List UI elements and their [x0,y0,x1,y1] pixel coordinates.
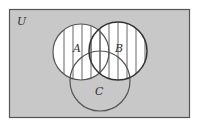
set-label-b: B [114,42,123,55]
set-label-c: C [95,85,104,98]
venn-diagram: U A B C [0,0,197,125]
universe-label: U [17,15,27,28]
set-label-a: A [72,42,81,55]
